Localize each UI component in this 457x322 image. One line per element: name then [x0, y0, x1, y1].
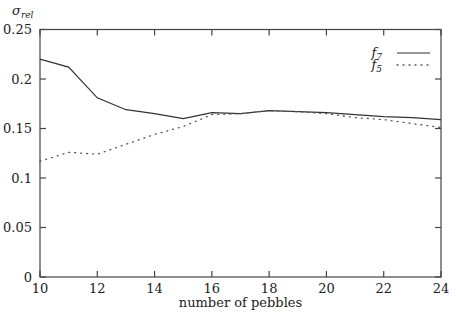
x-axis-label: number of pebbles	[179, 295, 302, 310]
x-tick-label: 24	[433, 281, 450, 296]
x-tick-label: 18	[261, 281, 278, 296]
y-tick-label: 0.05	[3, 220, 32, 235]
y-tick-label: 0.2	[11, 72, 32, 87]
x-tick-label: 14	[146, 281, 163, 296]
x-tick-label: 16	[204, 281, 221, 296]
series-lines	[40, 59, 441, 161]
y-tick-label: 0.1	[11, 171, 32, 186]
x-tick-label: 20	[318, 281, 335, 296]
y-axis-label: σrel	[12, 3, 34, 20]
y-tick-label: 0.25	[3, 22, 32, 37]
legend: f7f5	[370, 45, 430, 74]
y-tick-label: 0.15	[3, 121, 32, 136]
x-tick-label: 22	[375, 281, 392, 296]
series-f5	[40, 111, 441, 162]
x-tick-label: 12	[89, 281, 106, 296]
x-tick-label: 10	[32, 281, 49, 296]
x-axis-ticks: 1012141618202224	[32, 30, 450, 297]
line-chart: 00.050.10.150.20.25 1012141618202224 f7f…	[0, 0, 457, 322]
